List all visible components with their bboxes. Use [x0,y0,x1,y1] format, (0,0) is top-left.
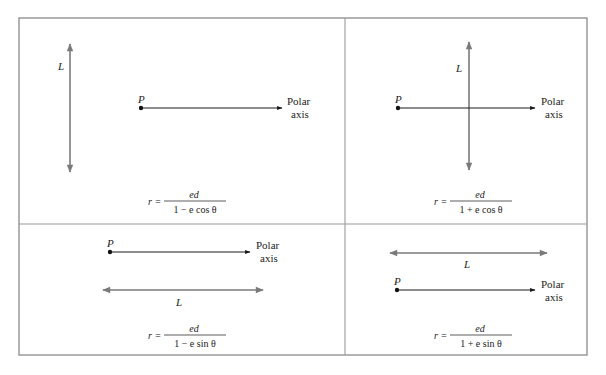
polar-axis-label-line2: axis [291,108,309,120]
formula-lhs: r = [434,330,447,341]
formula-numerator: ed [475,323,485,334]
formula-lhs: r = [148,196,161,207]
panel-a: L P Polar axis r = ed 1 − e cos θ [57,44,311,215]
directrix-label: L [175,296,182,308]
pole-label: P [106,237,114,249]
pole-label: P [137,93,145,105]
formula-denominator: 1 + e cos θ [459,204,502,215]
directrix-label: L [455,62,462,74]
panel-c: P Polar axis L r = ed 1 − e sin θ [103,237,280,349]
polar-axis-label-line1: Polar [541,95,565,107]
pole-label: P [394,93,402,105]
formula-denominator: 1 + e sin θ [460,338,502,349]
formula: r = ed 1 + e cos θ [434,189,512,215]
formula-lhs: r = [434,196,447,207]
figure-frame [19,18,587,355]
formula-denominator: 1 − e sin θ [174,338,216,349]
polar-axis-label-line2: axis [260,252,278,264]
conics-diagram: L P Polar axis r = ed 1 − e cos θ L P Po… [0,0,606,375]
panel-b: L P Polar axis r = ed 1 + e cos θ [394,42,565,215]
polar-axis-label-line2: axis [545,291,563,303]
pole-label: P [393,275,401,287]
formula-denominator: 1 − e cos θ [173,204,216,215]
formula: r = ed 1 + e sin θ [434,323,512,349]
formula-lhs: r = [148,330,161,341]
directrix-label: L [463,258,470,270]
directrix-label: L [57,60,64,72]
polar-axis-label-line2: axis [545,108,563,120]
formula-numerator: ed [189,189,199,200]
polar-axis-label-line1: Polar [256,239,280,251]
formula-numerator: ed [189,323,199,334]
polar-axis-label-line1: Polar [287,95,311,107]
formula-numerator: ed [475,189,485,200]
formula: r = ed 1 − e cos θ [148,189,226,215]
polar-axis-label-line1: Polar [541,278,565,290]
formula: r = ed 1 − e sin θ [148,323,226,349]
panel-d: L P Polar axis r = ed 1 + e sin θ [390,253,565,349]
